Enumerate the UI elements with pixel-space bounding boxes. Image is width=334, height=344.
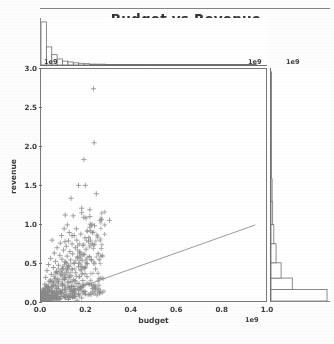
scatter-marker [87,207,92,212]
scatter-marker [65,280,70,285]
histogram-bar [271,225,274,244]
y-axis-ticks: 0.00.51.01.52.02.53.0 [16,68,37,302]
histogram-bar [271,244,276,263]
histogram-bar [68,62,73,65]
scatter-marker [102,232,107,237]
scatter-marker [92,140,97,145]
top-marginal-offset-text: 1e9 [248,58,262,66]
scatter-plot-area [40,68,267,302]
scatter-marker [103,223,108,228]
scatter-marker [93,266,98,271]
scatter-marker [91,271,96,276]
scatter-marker [79,206,84,211]
y-axis-label: revenue [9,142,18,212]
scatter-marker [68,196,73,201]
scatter-marker [48,256,53,261]
scatter-marker [62,239,67,244]
scatter-marker [58,241,63,246]
scatter-marker [76,183,81,188]
scatter-marker [54,245,59,250]
scatter-svg [41,69,266,301]
scatter-marker [99,226,104,231]
scatter-marker [43,275,48,280]
scatter-marker [95,233,100,238]
scatter-marker [79,210,84,215]
top-marginal-svg [41,18,267,65]
scatter-marker [69,241,74,246]
y-tick-label: 2.0 [25,142,37,151]
scatter-marker [97,283,102,288]
histogram-bar [271,263,281,278]
x-tick-label: 0.6 [170,305,182,314]
histogram-bar [271,202,273,225]
x-tick-label: 1.0 [261,305,273,314]
y-tick-mark [39,68,42,69]
y-tick-label: 3.0 [25,64,37,73]
scatter-marker [98,261,103,266]
x-tick-label: 0.0 [34,305,46,314]
scatter-marker [53,259,58,264]
scatter-markers [41,86,112,301]
scatter-marker [44,268,49,273]
right-marginal-offset-text: 1e9 [286,58,300,66]
y-tick-label: 2.5 [25,103,37,112]
right-marginal-histogram [270,68,330,302]
scatter-marker [65,254,70,259]
scatter-marker [107,218,112,223]
y-tick-label: 0.5 [25,259,37,268]
y-tick-label: 1.0 [25,220,37,229]
scatter-marker [83,247,88,252]
scatter-marker [85,229,90,234]
x-tick-label: 0.2 [79,305,91,314]
top-hist-bars [41,22,256,65]
scatter-marker [67,230,72,235]
scatter-marker [50,238,55,243]
scatter-marker [65,222,70,227]
scatter-marker [71,213,76,218]
scatter-marker [94,191,99,196]
scatter-marker [64,244,69,249]
scatter-marker [66,238,71,243]
y-tick-mark [39,107,42,108]
scatter-marker [78,231,83,236]
scatter-marker [67,249,72,254]
histogram-bar [271,148,272,179]
scatter-marker [63,212,68,217]
scatter-marker [74,226,79,231]
y-offset-text: 1e9 [44,58,58,66]
histogram-bar [84,64,89,65]
histogram-bar [79,63,84,65]
scatter-marker [70,251,75,256]
top-marginal-histogram [40,18,267,66]
histogram-bar [63,61,68,65]
y-tick-mark [39,263,42,264]
right-marginal-svg [271,68,330,301]
histogram-bar [271,72,272,110]
scatter-marker [61,247,66,252]
scatter-marker [81,157,86,162]
histogram-bar [95,64,106,65]
scatter-marker [91,86,96,91]
histogram-bar [73,63,78,65]
histogram-bar [271,278,292,289]
scatter-marker [96,279,101,284]
scatter-marker [96,271,101,276]
scatter-marker [101,277,106,282]
figure-canvas: Budget vs Revenue 1e9 1e9 1e9 0.00.51.01… [0,0,334,344]
y-tick-mark [39,185,42,186]
histogram-bar [271,290,327,301]
histogram-bar [271,179,272,202]
x-offset-text: 1e9 [245,316,259,324]
scatter-marker [100,242,105,247]
scatter-marker [83,183,88,188]
right-hist-bars [271,72,327,301]
scatter-marker [62,226,67,231]
y-tick-mark [39,224,42,225]
y-tick-mark [39,146,42,147]
scatter-marker [73,270,78,275]
document-rule [40,8,330,9]
scatter-marker [59,233,64,238]
x-tick-label: 0.8 [215,305,227,314]
x-tick-label: 0.4 [125,305,137,314]
y-tick-label: 1.5 [25,181,37,190]
